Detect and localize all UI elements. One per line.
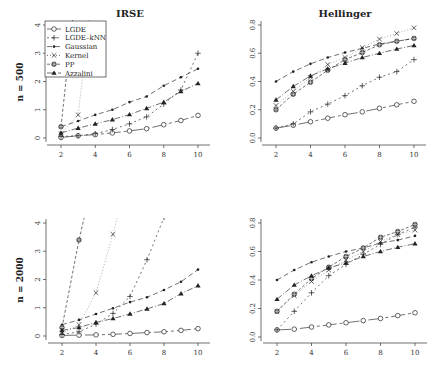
y-tick-label: 1 [34,306,42,310]
legend: LGDELGDE–kNNGaussianKernelPPAzzalini [45,21,106,78]
series-gaussian-marker [309,63,312,66]
legend-marker [53,45,56,48]
legend-marker [52,27,57,32]
series-azzalini-marker [360,55,365,59]
x-tick-label: 8 [162,151,166,159]
series-gaussian-marker [293,269,296,272]
series-azzalini-marker [195,81,200,85]
y-tick-label: 0.4 [249,75,257,87]
x-tick-label: 6 [128,349,133,357]
series-azzalini-marker [195,283,200,287]
series-lgde-knn-marker [144,114,150,120]
legend-label: PP [65,61,75,69]
series-lgde-knn-marker [161,215,167,221]
series-azzalini-marker [411,43,416,47]
series-lgde-marker [394,103,399,108]
y-tick-label: 3 [34,51,42,55]
series-azzalini-marker [309,273,314,277]
series-gaussian-marker [345,250,348,253]
x-tick-label: 2 [275,349,279,357]
x-tick-label: 6 [343,151,348,159]
series-lgde-knn-marker [291,309,297,315]
series-gaussian-marker [77,120,80,123]
series-kernel-marker [274,103,279,108]
series-lgde-marker [111,332,116,337]
series-lgde-marker [377,106,382,111]
series-lgde-knn-marker [411,57,417,63]
series-lgde-marker [94,333,99,338]
series-kernel-marker [325,62,330,67]
legend-label: LGDE–kNN [65,34,106,42]
series-azzalini-marker [161,100,166,104]
series-kernel-marker [412,26,417,31]
legend-label: Kernel [65,52,89,60]
series-azzalini-marker [412,241,417,245]
column-title-irse: IRSE [116,8,144,19]
series-lgde-knn-marker [127,121,133,127]
series-lgde-marker [308,119,313,124]
y-tick-label: 0 [34,334,42,338]
series-lgde-marker [196,113,201,118]
series-gaussian-marker [310,261,313,264]
series-lgde-knn-marker [326,273,332,279]
series-lgde-marker [162,329,167,334]
series-gaussian-marker [78,319,81,322]
x-tick-label: 6 [127,151,132,159]
x-tick-label: 4 [309,349,314,357]
series-pp-marker [94,164,99,169]
x-tick-label: 2 [59,151,63,159]
row-label-n2000: n = 2000 [15,257,25,302]
series-lgde-marker [378,316,383,321]
series-lgde-marker [326,323,331,328]
series-lgde [274,99,417,130]
series-lgde-marker [309,325,314,330]
series-lgde-marker [161,122,166,127]
series-lgde-knn-marker [325,101,331,107]
series-lgde-marker [360,110,365,115]
series-lgde-marker [361,318,366,323]
series-gaussian-marker [145,95,148,98]
series-azzalini [274,241,417,301]
series-gaussian-marker [276,279,279,282]
y-tick-label: 2 [34,79,42,83]
series-lgde-knn-marker [127,294,133,300]
series-lgde [275,310,418,332]
x-tick-label: 10 [194,349,203,357]
row-label-n500: n = 500 [15,62,25,101]
y-tick-label: 4 [34,22,42,27]
series-pp [274,36,417,112]
series-gaussian-marker [327,255,330,258]
series-azzalini-marker [378,249,383,253]
series-azzalini-marker [127,112,132,116]
series-gaussian-marker [112,307,115,310]
series-lgde-marker [343,112,348,117]
series-gaussian-marker [94,114,97,117]
series-gaussian-marker [146,296,149,299]
series-lgde-knn-marker [359,83,365,89]
series-gaussian-marker [129,301,132,304]
x-tick-label: 10 [194,151,203,159]
series-lgde-marker [179,328,184,333]
series-gaussian-marker [275,80,278,83]
series-lgde-marker [145,330,150,335]
series-lgde-marker [325,116,330,121]
series-lgde-marker [344,320,349,325]
panel-hellinger-n500: 0.00.20.40.60.8246810 [249,19,426,159]
series-lgde-marker [179,118,184,123]
y-tick-label: 0.2 [249,104,257,115]
series-gaussian-marker [180,280,183,283]
series-lgde-marker [196,326,201,331]
series-gaussian-marker [326,56,329,59]
y-tick-label: 0.6 [249,245,257,257]
series-gaussian-marker [163,289,166,292]
legend-label: Azzalini [64,70,94,78]
series-azzalini-marker [161,301,166,305]
series-lgde-knn-marker [377,74,383,80]
x-tick-label: 10 [411,349,420,357]
y-tick-label: 0.2 [249,303,257,314]
series-lgde-knn-marker [273,125,279,131]
series-gaussian-marker [292,70,295,73]
series-lgde-knn-marker [309,290,315,296]
series-gaussian-marker [197,67,200,70]
series-azzalini-marker [377,51,382,55]
